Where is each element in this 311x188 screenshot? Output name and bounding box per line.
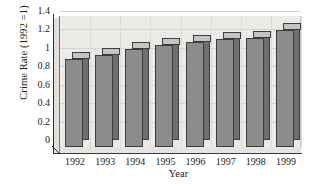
bar-side-face: [172, 38, 179, 140]
y-tick-label: 0.4: [24, 98, 50, 108]
x-axis-title: Year: [56, 168, 301, 179]
bar-top-face: [102, 48, 120, 55]
bar[interactable]: [155, 38, 173, 147]
bar-front-face: [216, 39, 234, 147]
x-tick-label: 1999: [271, 156, 301, 167]
bar-top-face: [283, 23, 301, 30]
y-tick-label: 0: [24, 135, 50, 145]
bar-side-face: [203, 35, 210, 140]
bar-side-face: [263, 31, 270, 140]
x-tick-label: 1998: [241, 156, 271, 167]
bar-top-face: [223, 32, 241, 39]
bar-front-face: [155, 45, 173, 147]
y-axis-ticks: 00.20.40.60.811.21.4: [14, 0, 50, 188]
bar-side-face: [233, 32, 240, 140]
bar-top-face: [132, 42, 150, 49]
vertical-gridline: [150, 16, 151, 148]
bar-front-face: [125, 49, 143, 147]
bar-front-face: [246, 38, 264, 147]
x-axis-line-front: [59, 153, 302, 154]
bar-side-face: [112, 48, 119, 140]
y-axis-line: [53, 14, 54, 154]
bar-top-face: [162, 38, 180, 45]
y-tick-label: 0.2: [24, 117, 50, 127]
gridline: [59, 11, 301, 12]
bar-side-face: [142, 42, 149, 140]
y-tick-label: 0.6: [24, 80, 50, 90]
vertical-gridline: [90, 16, 91, 148]
bar-top-face: [193, 35, 211, 42]
bar-chart-figure: Crime Rate (1992 =1) 00.20.40.60.811.21.…: [0, 0, 311, 188]
x-tick-label: 1994: [120, 156, 150, 167]
bar-top-face: [253, 31, 271, 38]
bar-front-face: [276, 30, 294, 147]
origin-depth-connector: [52, 146, 61, 155]
bar[interactable]: [186, 35, 204, 147]
vertical-gridline: [181, 16, 182, 148]
bar[interactable]: [125, 42, 143, 147]
vertical-gridline: [271, 16, 272, 148]
y-tick-label: 0.8: [24, 61, 50, 71]
bar-front-face: [95, 55, 113, 147]
bar-side-face: [82, 52, 89, 140]
y-tick-label: 1: [24, 43, 50, 53]
bar[interactable]: [276, 23, 294, 147]
y-tick-label: 1.2: [24, 24, 50, 34]
bar-side-face: [293, 23, 300, 140]
bar-front-face: [65, 59, 83, 147]
bar[interactable]: [95, 48, 113, 147]
vertical-gridline: [301, 16, 302, 148]
y-axis-line-front: [59, 16, 60, 154]
x-tick-label: 1992: [60, 156, 90, 167]
bar-front-face: [186, 42, 204, 147]
bar-top-face: [72, 52, 90, 59]
bar[interactable]: [216, 32, 234, 147]
vertical-gridline: [120, 16, 121, 148]
x-tick-label: 1995: [150, 156, 180, 167]
x-tick-label: 1993: [90, 156, 120, 167]
y-tick-label: 1.4: [24, 6, 50, 16]
plot-area: [53, 16, 301, 154]
x-tick-label: 1997: [211, 156, 241, 167]
bar[interactable]: [246, 31, 264, 147]
bar[interactable]: [65, 52, 83, 147]
x-tick-label: 1996: [181, 156, 211, 167]
